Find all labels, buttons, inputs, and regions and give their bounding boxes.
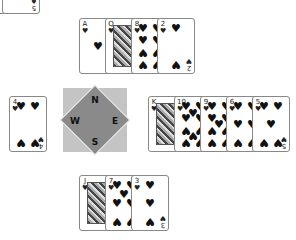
heart-pip-icon: ♥ <box>138 35 148 46</box>
heart-pip-icon: ♥ <box>233 119 243 130</box>
compass-north-label: N <box>91 95 99 105</box>
heart-pip-icon: ♥ <box>266 119 276 130</box>
card-5-hearts[interactable]: 5♥5♥♥♥♥♥♥ <box>252 96 290 152</box>
heart-pip-icon: ♥ <box>16 136 26 147</box>
heart-pip-icon: ♥ <box>273 101 283 112</box>
corner-card: 5♠ <box>2 0 40 14</box>
heart-pip-icon: ♥ <box>273 136 283 147</box>
heart-pip-icon: ♥ <box>138 58 148 69</box>
compass-east-label: E <box>112 116 118 126</box>
heart-pip-icon: ♥ <box>259 101 269 112</box>
card-index: 3♥ <box>160 214 166 228</box>
heart-pip-icon: ♥ <box>112 215 122 226</box>
heart-pip-icon: ♥ <box>207 124 217 135</box>
card-index: 2♥ <box>186 57 192 71</box>
heart-pip-icon: ♥ <box>145 198 155 209</box>
heart-pip-icon: ♥ <box>207 136 217 147</box>
card-2-hearts[interactable]: 2♥2♥♥♥ <box>157 18 195 74</box>
heart-pip-icon: ♥ <box>138 46 148 57</box>
heart-pip-icon: ♥ <box>138 23 148 34</box>
heart-pip-icon: ♥ <box>145 215 155 226</box>
card-index: 5♠ <box>31 0 37 11</box>
heart-pip-icon: ♥ <box>16 101 26 112</box>
heart-pip-icon: ♥ <box>93 41 103 52</box>
heart-pip-icon: ♥ <box>171 58 181 69</box>
compass-south-label: S <box>92 137 98 147</box>
card-4-hearts[interactable]: 4♥4♥♥♥♥♥ <box>9 96 47 152</box>
heart-pip-icon: ♥ <box>233 101 243 112</box>
card-3-hearts[interactable]: 3♥3♥♥♥♥ <box>131 175 169 231</box>
heart-pip-icon: ♥ <box>145 180 155 191</box>
heart-pip-icon: ♥ <box>207 101 217 112</box>
heart-pip-icon: ♥ <box>181 136 191 147</box>
heart-pip-icon: ♥ <box>112 198 122 209</box>
heart-pip-icon: ♥ <box>233 136 243 147</box>
heart-pip-icon: ♥ <box>30 136 40 147</box>
heart-pip-icon: ♥ <box>181 113 191 124</box>
compass-indicator: N E S W <box>63 88 127 152</box>
compass-west-label: W <box>70 116 80 126</box>
heart-pip-icon: ♥ <box>259 136 269 147</box>
heart-pip-icon: ♥ <box>30 101 40 112</box>
heart-pip-icon: ♥ <box>171 23 181 34</box>
